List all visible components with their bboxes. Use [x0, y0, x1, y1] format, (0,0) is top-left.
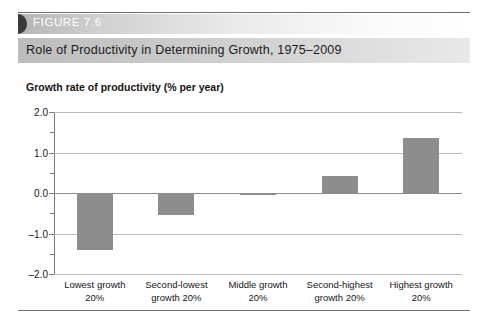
bar — [403, 138, 439, 193]
x-axis-tick-label-line: 20% — [49, 292, 141, 305]
y-axis-tick-label: –1.0 — [29, 228, 48, 239]
x-axis-tick-label-line: 20% — [212, 292, 304, 305]
y-axis-title: Growth rate of productivity (% per year) — [26, 81, 224, 93]
y-axis-tick — [49, 153, 54, 154]
x-axis-tick-label: Second-highestgrowth 20% — [294, 279, 386, 304]
bottom-rule — [18, 310, 470, 311]
y-axis-tick — [49, 274, 54, 275]
x-axis-tick-label-line: Second-highest — [294, 279, 386, 292]
x-axis-tick-label-line: Highest growth — [375, 279, 467, 292]
y-axis-tick — [49, 112, 54, 113]
gridline — [54, 112, 462, 113]
y-axis-minor-tick — [50, 213, 54, 214]
y-axis-tick — [49, 234, 54, 235]
bar — [322, 176, 358, 193]
y-axis-tick-label: 1.0 — [34, 147, 48, 158]
x-axis-tick-label-line: Middle growth — [212, 279, 304, 292]
figure-container: FIGURE 7.6 Role of Productivity in Deter… — [0, 0, 489, 331]
x-axis-tick-label: Highest growth20% — [375, 279, 467, 304]
x-axis-tick-label-line: Second-lowest — [131, 279, 223, 292]
x-axis-tick-labels: Lowest growth20%Second-lowestgrowth 20%M… — [54, 279, 462, 309]
bar — [240, 193, 276, 195]
y-axis-minor-tick — [50, 132, 54, 133]
plot-area — [54, 112, 462, 274]
y-axis-minor-tick — [50, 173, 54, 174]
x-axis-tick-label-line: growth 20% — [294, 292, 386, 305]
x-axis-tick-label: Second-lowestgrowth 20% — [131, 279, 223, 304]
y-axis-minor-tick — [50, 254, 54, 255]
top-rule — [18, 12, 470, 13]
bar — [158, 193, 194, 215]
y-axis-tick-labels: 2.01.00.0–1.0–2.0 — [14, 112, 48, 274]
figure-title: Role of Productivity in Determining Grow… — [26, 43, 342, 57]
x-axis-tick-label-line: Lowest growth — [49, 279, 141, 292]
x-axis-tick-label: Lowest growth20% — [49, 279, 141, 304]
y-axis-tick — [49, 193, 54, 194]
gridline — [54, 234, 462, 235]
x-axis-tick-label: Middle growth20% — [212, 279, 304, 304]
gridline — [54, 274, 462, 275]
y-axis-tick-label: –2.0 — [29, 269, 48, 280]
figure-number-label: FIGURE 7.6 — [33, 16, 102, 28]
gridline — [54, 153, 462, 154]
y-axis-tick-label: 2.0 — [34, 107, 48, 118]
y-axis-tick-label: 0.0 — [34, 188, 48, 199]
x-axis-tick-label-line: growth 20% — [131, 292, 223, 305]
x-axis-tick-label-line: 20% — [375, 292, 467, 305]
bar — [77, 193, 113, 250]
